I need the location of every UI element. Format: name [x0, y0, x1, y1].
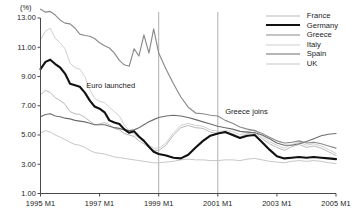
legend-label: France: [302, 11, 331, 21]
legend-label: Greece: [302, 30, 332, 40]
legend-item-italy[interactable]: Italy: [264, 40, 338, 50]
chart-legend: FranceGermanyGreeceItalySpainUK: [264, 11, 338, 69]
y-tick-label: 5.00: [0, 130, 36, 139]
legend-label: UK: [302, 59, 318, 69]
x-tick-label: 1999 M1: [135, 199, 183, 208]
legend-line-swatch: [264, 11, 302, 21]
legend-label: Spain: [302, 49, 326, 59]
annotation-guide-lines: [159, 12, 218, 194]
legend-label: Italy: [302, 40, 321, 50]
legend-item-greece[interactable]: Greece: [264, 30, 338, 40]
x-tick-label: 1997 M1: [76, 199, 124, 208]
y-tick-label: 13.00: [0, 13, 36, 22]
y-tick-label: 11.00: [0, 43, 36, 52]
x-tick-label: 2003 M1: [253, 199, 301, 208]
legend-item-germany[interactable]: Germany: [264, 21, 338, 31]
x-tick-label: 1995 M1: [17, 199, 65, 208]
x-tick-label: 2005 M1: [312, 199, 355, 208]
legend-line-swatch: [264, 30, 302, 40]
annotation-label: Euro launched: [86, 81, 135, 90]
legend-line-swatch: [264, 40, 302, 50]
y-tick-label: 7.00: [0, 101, 36, 110]
legend-line-swatch: [264, 59, 302, 69]
legend-item-spain[interactable]: Spain: [264, 49, 338, 59]
y-tick-label: 3.00: [0, 160, 36, 169]
legend-item-uk[interactable]: UK: [264, 59, 338, 69]
legend-label: Germany: [302, 21, 338, 31]
legend-line-swatch: [264, 49, 302, 59]
y-tick-label: 1.00: [0, 189, 36, 198]
series-line-spain: [41, 114, 337, 145]
x-tick-label: 2001 M1: [194, 199, 242, 208]
annotation-label: Greece joins: [225, 107, 268, 116]
legend-line-swatch: [264, 21, 302, 31]
legend-item-france[interactable]: France: [264, 11, 338, 21]
y-tick-label: 9.00: [0, 72, 36, 81]
